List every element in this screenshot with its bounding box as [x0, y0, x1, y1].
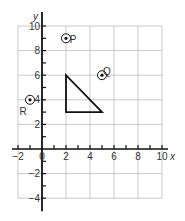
- coordinate-grid-diagram: −20246810 108642−2−4 x y PQR: [0, 0, 185, 221]
- y-tick-label: 2: [34, 119, 40, 130]
- x-tick-label: 8: [135, 151, 141, 162]
- x-tick-label: 4: [87, 151, 93, 162]
- x-tick-label: 10: [156, 151, 168, 162]
- point-label: R: [19, 106, 26, 117]
- point-p: P: [62, 34, 77, 45]
- point-dot-icon: [64, 37, 67, 40]
- y-axis-label: y: [32, 11, 39, 22]
- point-dot-icon: [28, 98, 31, 101]
- x-tick-labels: −20246810: [12, 151, 168, 162]
- x-axis-label: x: [169, 151, 176, 162]
- y-tick-label: 4: [34, 94, 40, 105]
- y-tick-label: −2: [29, 168, 41, 179]
- y-tick-label: 6: [34, 70, 40, 81]
- y-tick-labels: 108642−2−4: [29, 21, 41, 204]
- y-tick-label: −4: [29, 193, 41, 204]
- point-label: P: [70, 34, 77, 45]
- x-tick-label: 2: [63, 151, 69, 162]
- point-q: Q: [98, 66, 112, 80]
- y-tick-label: 8: [34, 45, 40, 56]
- x-tick-label: 0: [39, 151, 45, 162]
- triangle-shape: [66, 75, 102, 112]
- point-label: Q: [103, 66, 111, 77]
- x-tick-label: −2: [12, 151, 24, 162]
- x-tick-label: 6: [111, 151, 117, 162]
- y-tick-label: 10: [29, 21, 41, 32]
- point-r: R: [19, 95, 34, 117]
